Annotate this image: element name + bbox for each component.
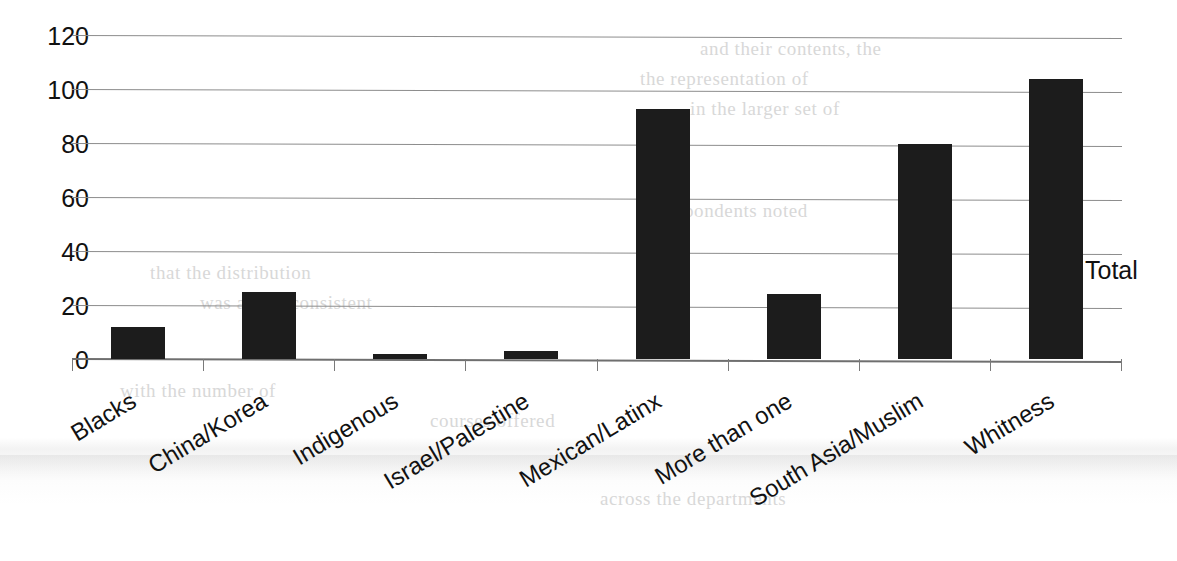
- x-label-china-korea: China/Korea: [1, 388, 271, 561]
- bar-chart: 120 100 80 60 40 20 0: [0, 0, 1177, 561]
- chart-legend: Total: [1055, 258, 1138, 283]
- x-axis-labels: Blacks China/Korea Indigenous Israel/Pal…: [0, 0, 1177, 561]
- x-label-mexican-latinx: Mexican/Latinx: [395, 388, 665, 561]
- legend-swatch-icon: [1055, 261, 1074, 280]
- x-label-more-than-one: More than one: [526, 388, 796, 561]
- x-label-indigenous: Indigenous: [132, 388, 402, 561]
- x-label-whitness: Whitness: [788, 388, 1058, 561]
- x-label-south-asia-muslim: South Asia/Muslim: [657, 388, 927, 561]
- x-label-israel-palestine: Israel/Palestine: [263, 388, 533, 561]
- legend-label-total: Total: [1085, 258, 1138, 283]
